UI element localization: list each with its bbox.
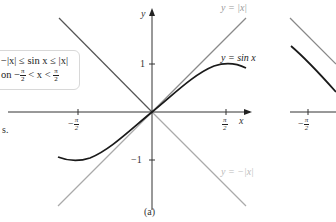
callout-line-2: on −π2 < x < π2 <box>1 68 79 83</box>
panel-b-x-tick-label: −π2 <box>298 117 309 132</box>
inequality-callout: −|x| ≤ sin x ≤ |x| on −π2 < x < π2 <box>0 50 80 90</box>
label-sin-x: y = sin x <box>221 52 256 63</box>
callout-mid: < x < <box>26 69 54 80</box>
x-axis-arrow-icon <box>244 109 252 115</box>
callout-prefix: on − <box>1 69 20 80</box>
graph-canvas <box>0 0 336 222</box>
frac-pi-2: π2 <box>53 68 59 83</box>
panel-b-upper-line <box>290 18 336 64</box>
abs-x-right-branch <box>152 18 246 112</box>
callout-line-1: −|x| ≤ sin x ≤ |x| <box>1 54 79 68</box>
x-axis-label: x <box>239 115 243 126</box>
neg-abs-x-right-branch <box>152 112 246 206</box>
panel-b-curve <box>291 46 336 92</box>
y-tick-label-1: 1 <box>140 58 145 69</box>
stray-text: s. <box>2 124 8 135</box>
x-tick-label-neg-pi-2: −π2 <box>68 117 79 132</box>
figure-caption: (a) <box>144 206 155 217</box>
y-tick-label-neg-1: −1 <box>131 154 142 165</box>
label-abs-x: y = |x| <box>221 2 247 13</box>
y-axis-label: y <box>141 8 145 19</box>
y-axis-arrow-icon <box>149 8 155 16</box>
label-neg-abs-x: y = −|x| <box>221 166 254 177</box>
x-tick-label-pi-2: π2 <box>222 117 228 132</box>
